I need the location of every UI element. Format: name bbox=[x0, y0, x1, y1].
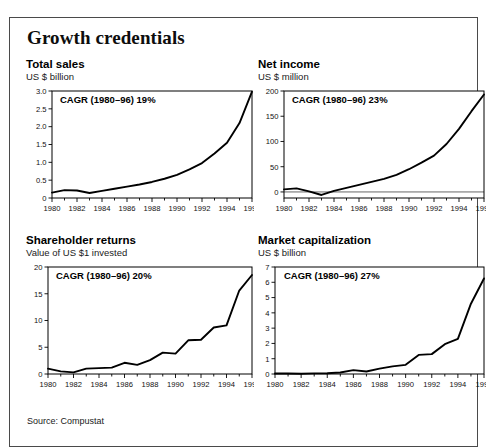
y-tick-label: 2.0 bbox=[36, 122, 47, 131]
panel-market-capitalization: Market capitalization US $ billion 76543… bbox=[258, 234, 486, 406]
x-tick-label: 1980 bbox=[267, 380, 284, 389]
chart-net-income: 2001501005001980198219841986198819901992… bbox=[258, 86, 486, 226]
x-tick-label: 1990 bbox=[397, 380, 414, 389]
y-tick-label: 5 bbox=[38, 343, 42, 352]
x-tick-label: 1980 bbox=[44, 204, 61, 213]
x-tick-label: 1986 bbox=[351, 204, 368, 213]
y-tick-label: 2 bbox=[265, 339, 269, 348]
x-tick-label: 1984 bbox=[326, 204, 343, 213]
panel-unit-shareholder-returns: Value of US $1 invested bbox=[26, 247, 254, 259]
y-tick-label: 100 bbox=[266, 137, 279, 146]
y-tick-label: 20 bbox=[34, 263, 42, 272]
panel-title-net-income: Net income bbox=[258, 58, 486, 71]
chart-svg-shareholder-returns: 2015105019801982198419861988199019921994… bbox=[26, 262, 254, 402]
exhibit-frame: Growth credentials Total sales US $ bill… bbox=[9, 17, 478, 447]
y-tick-label: 150 bbox=[266, 112, 279, 121]
x-tick-label: 1994 bbox=[219, 204, 236, 213]
x-tick-label: 1984 bbox=[91, 380, 108, 389]
x-tick-label: 1988 bbox=[371, 380, 388, 389]
x-tick-label: 1992 bbox=[426, 204, 443, 213]
chart-total-sales: 3.02.52.01.51.00.50198019821984198619881… bbox=[26, 86, 254, 226]
panel-net-income: Net income US $ million 2001501005001980… bbox=[258, 58, 486, 230]
x-tick-label: 1980 bbox=[40, 380, 57, 389]
cagr-annotation: CAGR (1980–96) 20% bbox=[56, 270, 152, 281]
y-tick-label: 3.0 bbox=[36, 87, 47, 96]
y-tick-label: 15 bbox=[34, 290, 42, 299]
chart-svg-market-capitalization: 7654321019801982198419861988199019921994… bbox=[258, 262, 486, 402]
chart-svg-net-income: 2001501005001980198219841986198819901992… bbox=[258, 86, 486, 226]
x-tick-label: 1996 bbox=[476, 380, 486, 389]
y-tick-label: 10 bbox=[34, 316, 42, 325]
x-tick-label: 1994 bbox=[218, 380, 235, 389]
x-tick-label: 1996 bbox=[244, 380, 254, 389]
y-tick-label: 0 bbox=[42, 194, 46, 203]
y-tick-label: 5 bbox=[265, 293, 269, 302]
source-note: Source: Compustat bbox=[27, 416, 104, 426]
x-tick-label: 1988 bbox=[144, 204, 161, 213]
cagr-annotation: CAGR (1980–96) 19% bbox=[60, 94, 156, 105]
y-tick-label: 0.5 bbox=[36, 176, 47, 185]
x-tick-label: 1990 bbox=[169, 204, 186, 213]
chart-shareholder-returns: 2015105019801982198419861988199019921994… bbox=[26, 262, 254, 402]
x-tick-label: 1986 bbox=[116, 380, 133, 389]
y-tick-label: 2.5 bbox=[36, 105, 47, 114]
x-tick-label: 1990 bbox=[401, 204, 418, 213]
panel-total-sales: Total sales US $ billion 3.02.52.01.51.0… bbox=[26, 58, 254, 230]
x-tick-label: 1982 bbox=[69, 204, 86, 213]
y-tick-label: 0 bbox=[265, 370, 269, 379]
x-tick-label: 1996 bbox=[244, 204, 254, 213]
chart-market-capitalization: 7654321019801982198419861988199019921994… bbox=[258, 262, 486, 402]
cagr-annotation: CAGR (1980–96) 23% bbox=[292, 94, 388, 105]
y-tick-label: 200 bbox=[266, 87, 279, 96]
x-tick-label: 1990 bbox=[167, 380, 184, 389]
x-tick-label: 1992 bbox=[193, 380, 210, 389]
panel-unit-net-income: US $ million bbox=[258, 71, 486, 83]
x-tick-label: 1986 bbox=[119, 204, 136, 213]
y-tick-label: 6 bbox=[265, 278, 269, 287]
x-tick-label: 1994 bbox=[449, 380, 466, 389]
y-tick-label: 0 bbox=[274, 188, 278, 197]
x-tick-label: 1986 bbox=[345, 380, 362, 389]
x-tick-label: 1996 bbox=[476, 204, 486, 213]
x-tick-label: 1984 bbox=[319, 380, 336, 389]
x-tick-label: 1994 bbox=[451, 204, 468, 213]
y-tick-label: 3 bbox=[265, 324, 269, 333]
x-tick-label: 1982 bbox=[301, 204, 318, 213]
panel-title-shareholder-returns: Shareholder returns bbox=[26, 234, 254, 247]
chart-panel-grid: Total sales US $ billion 3.02.52.01.51.0… bbox=[10, 58, 479, 408]
x-tick-label: 1992 bbox=[423, 380, 440, 389]
y-tick-label: 0 bbox=[38, 370, 42, 379]
panel-title-total-sales: Total sales bbox=[26, 58, 254, 71]
chart-svg-total-sales: 3.02.52.01.51.00.50198019821984198619881… bbox=[26, 86, 254, 226]
panel-shareholder-returns: Shareholder returns Value of US $1 inves… bbox=[26, 234, 254, 406]
x-tick-label: 1988 bbox=[376, 204, 393, 213]
x-tick-label: 1984 bbox=[94, 204, 111, 213]
page-title: Growth credentials bbox=[27, 27, 185, 49]
x-tick-label: 1980 bbox=[276, 204, 293, 213]
panel-unit-total-sales: US $ billion bbox=[26, 71, 254, 83]
y-tick-label: 1 bbox=[265, 355, 269, 364]
y-tick-label: 50 bbox=[270, 163, 278, 172]
y-tick-label: 4 bbox=[265, 309, 269, 318]
x-tick-label: 1982 bbox=[293, 380, 310, 389]
x-tick-label: 1982 bbox=[65, 380, 82, 389]
y-tick-label: 1.0 bbox=[36, 158, 47, 167]
plot-area bbox=[275, 267, 484, 374]
plot-area bbox=[284, 91, 484, 198]
plot-area bbox=[48, 267, 252, 374]
panel-unit-market-capitalization: US $ billion bbox=[258, 247, 486, 259]
cagr-annotation: CAGR (1980–96) 27% bbox=[284, 270, 380, 281]
panel-title-market-capitalization: Market capitalization bbox=[258, 234, 486, 247]
y-tick-label: 7 bbox=[265, 263, 269, 272]
x-tick-label: 1988 bbox=[142, 380, 159, 389]
x-tick-label: 1992 bbox=[194, 204, 211, 213]
y-tick-label: 1.5 bbox=[36, 140, 47, 149]
